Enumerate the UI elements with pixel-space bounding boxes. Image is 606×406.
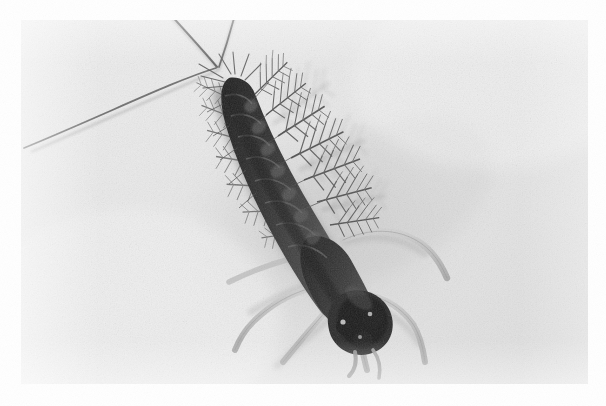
photograph-image bbox=[21, 20, 588, 384]
film-grain bbox=[21, 20, 588, 384]
photograph-page bbox=[0, 0, 606, 406]
mayfly-nymph-illustration bbox=[21, 20, 588, 384]
